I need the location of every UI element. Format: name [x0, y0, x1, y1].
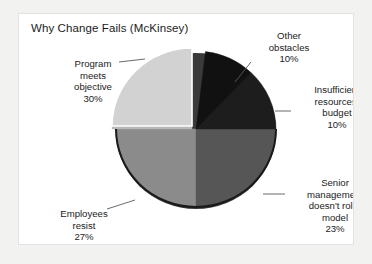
slice-label-senior-management: Senior management doesn't role- model 23… — [287, 177, 354, 235]
slice-label-other-obstacles: Other obstacles 10% — [247, 30, 331, 65]
pie-slice-senior-management — [196, 129, 276, 207]
slice-label-program-meets-objective: Program meets objective 30% — [55, 58, 131, 104]
slice-label-insufficient-resources: Insufficient resources/ budget 10% — [291, 84, 354, 130]
pie-chart-figure: Why Change Fails (McKinsey) — [0, 0, 372, 264]
pie-slice-employees-resist — [116, 129, 196, 207]
slice-label-employees-resist: Employees resist 27% — [41, 208, 127, 243]
chart-frame: Why Change Fails (McKinsey) — [18, 13, 354, 245]
